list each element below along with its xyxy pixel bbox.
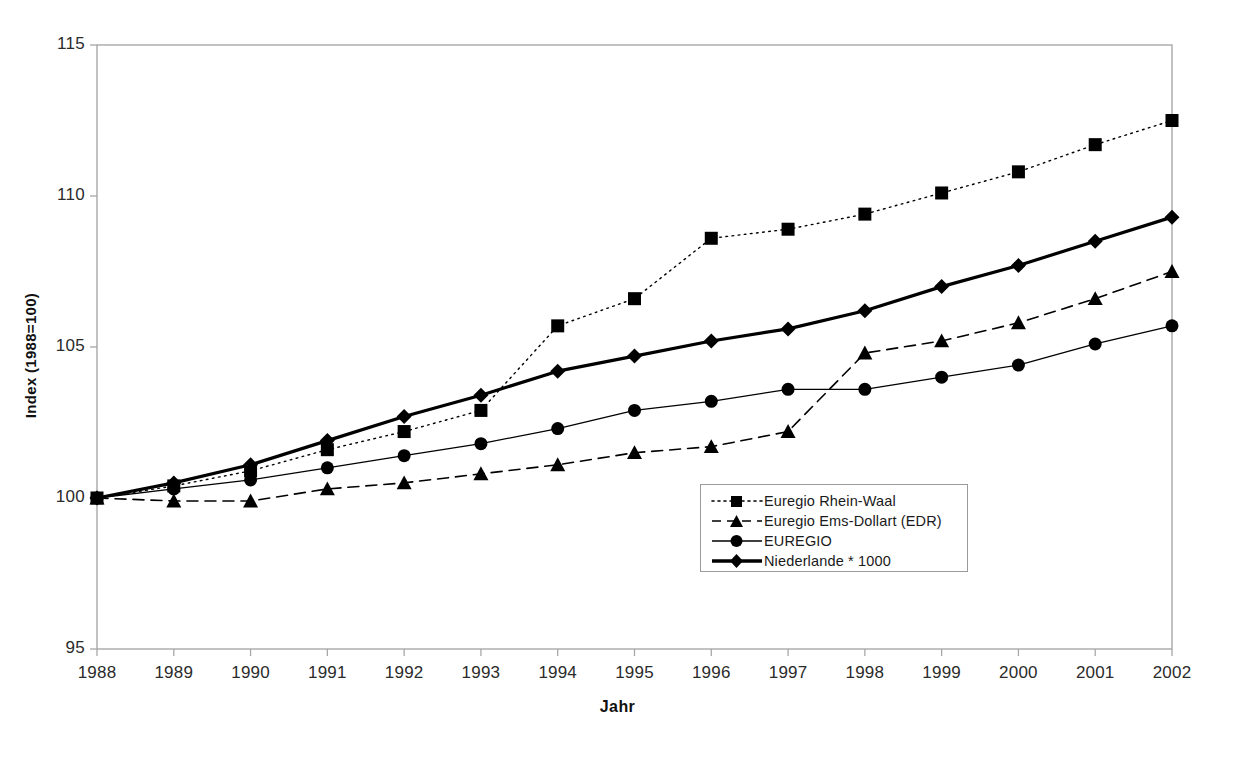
- data-point: [935, 186, 948, 199]
- series-euregio: [91, 319, 1179, 504]
- legend-item: Euregio Rhein-Waal: [701, 491, 967, 511]
- data-point: [1011, 315, 1026, 329]
- data-point: [398, 449, 411, 462]
- chart-container: Index (1988=100) Jahr 95100105110115 198…: [0, 0, 1235, 760]
- legend-label: Euregio Rhein-Waal: [764, 493, 896, 509]
- data-point: [1088, 291, 1103, 305]
- legend-key-euregio: [710, 531, 764, 551]
- data-point: [473, 466, 488, 480]
- plot-frame: [97, 45, 1172, 649]
- data-point: [628, 292, 641, 305]
- series-line: [97, 121, 1172, 499]
- data-point: [782, 223, 795, 236]
- data-point: [782, 383, 795, 396]
- legend-item: EUREGIO: [701, 531, 967, 551]
- data-point: [397, 409, 412, 424]
- data-point: [1012, 359, 1025, 372]
- data-point: [1166, 114, 1179, 127]
- data-point: [704, 333, 719, 348]
- data-point: [858, 208, 871, 221]
- data-point: [858, 383, 871, 396]
- plot-area: [0, 0, 1235, 760]
- data-point: [1012, 165, 1025, 178]
- data-point: [473, 388, 488, 403]
- data-point: [474, 404, 487, 417]
- legend-label: Niederlande * 1000: [764, 553, 891, 569]
- data-point: [1089, 138, 1102, 151]
- data-point: [550, 364, 565, 379]
- legend-key-euregio-ems-dollart: [710, 511, 764, 531]
- data-point: [474, 437, 487, 450]
- data-point: [857, 303, 872, 318]
- data-point: [781, 321, 796, 336]
- data-point: [551, 422, 564, 435]
- data-point: [551, 319, 564, 332]
- data-point: [1166, 319, 1179, 332]
- data-point: [1088, 234, 1103, 249]
- data-point: [1165, 210, 1180, 225]
- legend-key-niederlande: [710, 551, 764, 571]
- series-niederlande-1000: [90, 210, 1180, 506]
- data-point: [628, 404, 641, 417]
- data-point: [1165, 264, 1180, 278]
- series-line: [97, 272, 1172, 502]
- legend-key-euregio-rhein-waal: [710, 491, 764, 511]
- legend-label: EUREGIO: [764, 533, 832, 549]
- legend-item: Euregio Ems-Dollart (EDR): [701, 511, 967, 531]
- data-point: [398, 425, 411, 438]
- legend-label: Euregio Ems-Dollart (EDR): [764, 513, 942, 529]
- chart-legend: Euregio Rhein-Waal Euregio Ems-Dollart (…: [700, 484, 968, 572]
- data-point: [321, 461, 334, 474]
- data-point: [705, 232, 718, 245]
- data-point: [627, 349, 642, 364]
- data-point: [935, 371, 948, 384]
- data-point: [1089, 337, 1102, 350]
- data-point: [244, 473, 257, 486]
- data-point: [934, 279, 949, 294]
- data-point: [705, 395, 718, 408]
- legend-item: Niederlande * 1000: [701, 551, 967, 571]
- data-point: [1011, 258, 1026, 273]
